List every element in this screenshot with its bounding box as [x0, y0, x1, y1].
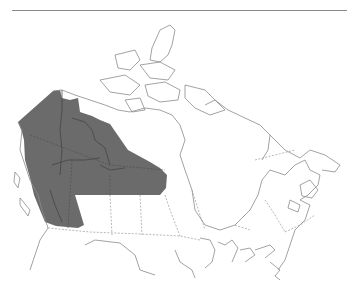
west-islands	[14, 172, 30, 216]
great-lakes	[200, 238, 275, 268]
us-coast	[85, 240, 280, 280]
newfoundland	[288, 180, 318, 212]
arctic-islands	[100, 25, 225, 115]
us-border	[48, 215, 315, 240]
canada-range-map	[0, 0, 352, 283]
